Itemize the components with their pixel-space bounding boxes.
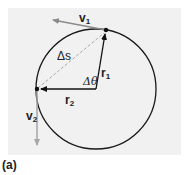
label-r2: r2 — [65, 94, 74, 108]
label-delta-s: Δs — [57, 50, 71, 62]
label-v2: v2 — [26, 110, 37, 124]
label-v1: v1 — [79, 12, 90, 26]
point-p1 — [104, 28, 108, 32]
label-delta-theta: Δθ — [83, 76, 98, 87]
label-r1: r1 — [101, 67, 110, 81]
figure-caption: (a) — [2, 158, 17, 172]
point-p2 — [35, 87, 39, 91]
